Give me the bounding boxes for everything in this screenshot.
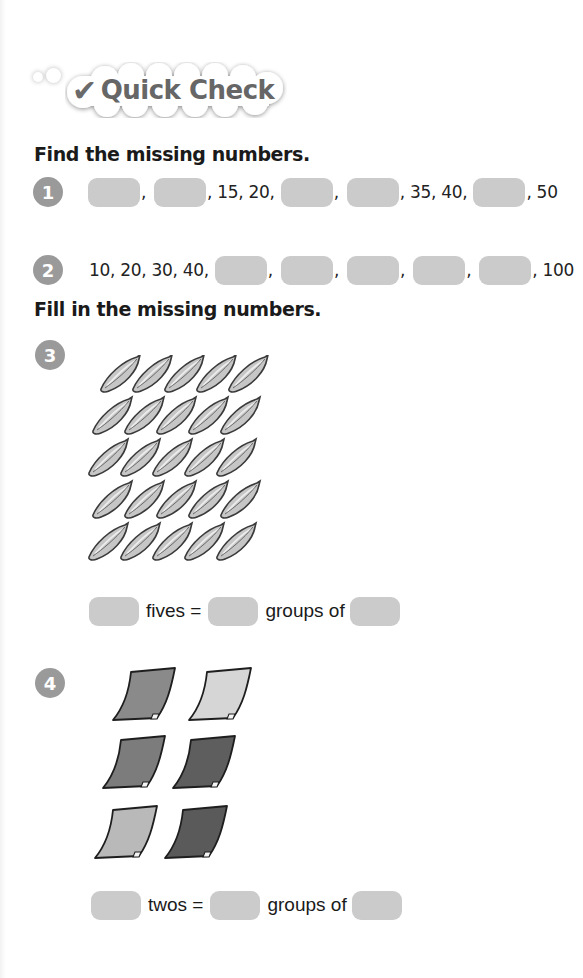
paper-sheet-icon <box>95 806 157 858</box>
thought-dot-small <box>33 72 43 82</box>
section-heading-fill: Fill in the missing numbers. <box>34 298 321 320</box>
page-edge-shadow <box>0 0 6 978</box>
banner-title-group: ✔ Quick Check <box>72 72 274 108</box>
sequence-text: , 15, 20, <box>207 182 275 202</box>
answer-blank[interactable] <box>473 178 525 207</box>
sequence-text: , 35, 40, <box>400 182 468 202</box>
answer-blank[interactable] <box>347 256 399 285</box>
question-number-badge: 1 <box>33 177 63 207</box>
banner-title: Quick Check <box>101 75 275 105</box>
section-heading-find: Find the missing numbers. <box>34 143 310 165</box>
answer-blank[interactable] <box>154 178 206 207</box>
equation-word: twos = <box>148 894 203 916</box>
answer-blank[interactable] <box>215 256 267 285</box>
paper-sheet-icon <box>103 736 165 788</box>
equation-word: groups of <box>267 894 346 916</box>
thought-dot-large <box>46 68 61 83</box>
number-sequence-1: ,, 15, 20,,, 35, 40,, 50 <box>88 177 564 207</box>
equation-row-fives: fives = groups of <box>89 596 400 626</box>
answer-blank[interactable] <box>347 178 399 207</box>
question-number-badge: 2 <box>33 255 63 285</box>
answer-blank[interactable] <box>210 891 260 920</box>
check-mark-icon: ✔ <box>72 73 97 108</box>
question-number-badge: 3 <box>35 340 65 370</box>
sequence-text: , <box>334 260 339 280</box>
equation-row-twos: twos = groups of <box>91 890 402 920</box>
paper-picture-grid <box>85 662 265 872</box>
answer-blank[interactable] <box>91 891 141 920</box>
number-sequence-2: 10, 20, 30, 40,,,,,, 100 <box>88 255 580 285</box>
equation-word: fives = <box>146 600 201 622</box>
paper-sheet-icon <box>165 806 227 858</box>
sequence-text: , <box>334 182 339 202</box>
paper-sheet-icon <box>173 736 235 788</box>
paper-sheet-icon <box>189 668 251 720</box>
sequence-text: , 100 <box>532 260 574 280</box>
question-number-badge: 4 <box>35 668 65 698</box>
answer-blank[interactable] <box>89 597 139 626</box>
sequence-text: , <box>268 260 273 280</box>
sequence-text: , <box>466 260 471 280</box>
answer-blank[interactable] <box>352 891 402 920</box>
answer-blank[interactable] <box>208 597 258 626</box>
answer-blank[interactable] <box>88 178 140 207</box>
paper-sheet-icon <box>113 668 175 720</box>
answer-blank[interactable] <box>281 256 333 285</box>
answer-blank[interactable] <box>281 178 333 207</box>
banana-picture-grid <box>85 355 275 570</box>
sequence-text: 10, 20, 30, 40, <box>89 260 209 280</box>
answer-blank[interactable] <box>413 256 465 285</box>
sequence-text: , <box>400 260 405 280</box>
sequence-text: , 50 <box>526 182 557 202</box>
answer-blank[interactable] <box>350 597 400 626</box>
sequence-text: , <box>141 182 146 202</box>
answer-blank[interactable] <box>479 256 531 285</box>
equation-word: groups of <box>265 600 344 622</box>
